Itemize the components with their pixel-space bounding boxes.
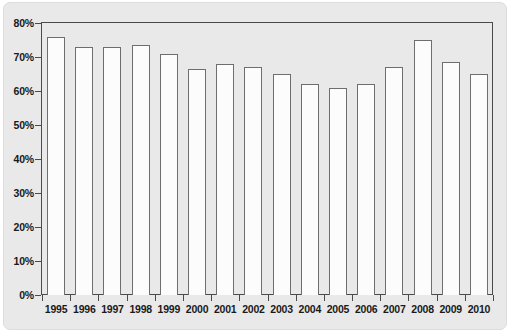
- bar: [216, 64, 234, 295]
- bar: [329, 88, 347, 295]
- x-axis-tick-label: 2002: [242, 303, 265, 315]
- y-axis-tick-label: 10%: [14, 255, 34, 267]
- bar: [357, 84, 375, 295]
- bar: [47, 37, 65, 295]
- x-axis-tick-label: 2009: [439, 303, 462, 315]
- y-axis-tick-label: 80%: [14, 17, 34, 29]
- bar: [442, 62, 460, 295]
- y-axis-tick-label: 70%: [14, 51, 34, 63]
- x-axis-tick-label: 2010: [468, 303, 491, 315]
- bar-chart-figure: 0%10%20%30%40%50%60%70%80% 1995199619971…: [0, 0, 510, 334]
- y-axis-tick-label: 30%: [14, 187, 34, 199]
- x-axis-tick-label: 1999: [158, 303, 181, 315]
- x-axis-tick-mark: [211, 295, 212, 301]
- bar: [273, 74, 291, 295]
- y-axis-tick-label: 40%: [14, 153, 34, 165]
- bar: [301, 84, 319, 295]
- bar: [470, 74, 488, 295]
- bar: [244, 67, 262, 295]
- x-axis-tick-mark: [183, 295, 184, 301]
- x-axis-tick-mark: [493, 295, 494, 301]
- x-axis-tick-mark: [465, 295, 466, 301]
- x-axis-tick-label: 2007: [383, 303, 406, 315]
- bar: [385, 67, 403, 295]
- y-axis-labels: 0%10%20%30%40%50%60%70%80%: [0, 0, 34, 334]
- bar: [103, 47, 121, 295]
- x-axis-tick-mark: [296, 295, 297, 301]
- x-axis-tick-mark: [42, 295, 43, 301]
- x-axis-tick-label: 2003: [270, 303, 293, 315]
- x-axis-tick-mark: [127, 295, 128, 301]
- x-axis-tick-mark: [408, 295, 409, 301]
- y-axis-tick-label: 20%: [14, 221, 34, 233]
- x-axis-tick-mark: [98, 295, 99, 301]
- x-axis-tick-label: 1997: [101, 303, 124, 315]
- x-axis-tick-label: 2001: [214, 303, 237, 315]
- x-axis-tick-mark: [352, 295, 353, 301]
- bar: [75, 47, 93, 295]
- x-axis-tick-mark: [268, 295, 269, 301]
- x-axis-tick-label: 1996: [73, 303, 96, 315]
- x-axis-tick-mark: [437, 295, 438, 301]
- bars-container: [42, 23, 493, 295]
- bar: [188, 69, 206, 295]
- x-axis-tick-label: 2005: [327, 303, 350, 315]
- x-axis-tick-label: 2004: [299, 303, 322, 315]
- x-axis-tick-mark: [324, 295, 325, 301]
- x-axis-tick-label: 1995: [45, 303, 68, 315]
- x-axis-tick-label: 2006: [355, 303, 378, 315]
- x-axis-tick-label: 1998: [129, 303, 152, 315]
- x-axis-tick-mark: [239, 295, 240, 301]
- x-axis-tick-mark: [70, 295, 71, 301]
- bar: [132, 45, 150, 295]
- x-axis-tick-label: 2000: [186, 303, 209, 315]
- x-axis-tick-mark: [380, 295, 381, 301]
- x-axis-tick-mark: [155, 295, 156, 301]
- y-axis-tick-label: 0%: [19, 289, 34, 301]
- x-axis-tick-label: 2008: [411, 303, 434, 315]
- y-axis-tick-label: 50%: [14, 119, 34, 131]
- y-axis-tick-mark: [35, 295, 41, 296]
- y-axis-tick-label: 60%: [14, 85, 34, 97]
- bar: [160, 54, 178, 295]
- bar: [414, 40, 432, 295]
